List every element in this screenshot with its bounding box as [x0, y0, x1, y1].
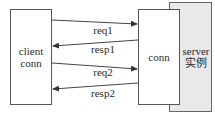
resp1-label: resp1 — [83, 44, 123, 55]
req1-label: req1 — [83, 25, 123, 36]
resp2-label: resp2 — [83, 88, 123, 99]
req2-label: req2 — [83, 67, 123, 78]
